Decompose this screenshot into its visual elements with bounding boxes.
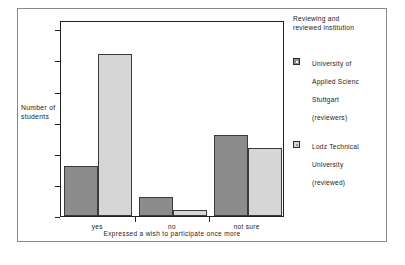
y-tick-mark (55, 61, 60, 62)
y-tick-mark (55, 30, 60, 31)
x-axis-title: Expressed a wish to participate once mor… (60, 230, 284, 237)
legend-entry-label: University of Applied Scienc Stuttgart (… (312, 60, 359, 121)
x-tick-mark (209, 217, 210, 222)
legend-entry-label: Lodz Technical University (reviewed) (312, 143, 359, 186)
y-tick-mark (55, 186, 60, 187)
x-tick-label-no: no (137, 223, 207, 230)
dark-gray-swatch-icon (293, 58, 300, 65)
x-tick-label-yes: yes (62, 223, 132, 230)
y-axis-ticks: 051015202530 (60, 21, 284, 217)
y-tick-mark (55, 93, 60, 94)
x-tick-label-not-sure: not sure (212, 223, 282, 230)
legend-title: Reviewing and reviewed institution (293, 14, 385, 32)
y-axis-title: Number of students (21, 104, 63, 121)
x-tick-mark (135, 217, 136, 222)
y-tick-mark (55, 155, 60, 156)
x-axis-ticks: yesnonot sure (60, 217, 284, 241)
y-tick-mark (55, 124, 60, 125)
legend-entry-reviewers[interactable]: University of Applied Scienc Stuttgart (… (293, 52, 385, 124)
chart-legend: Reviewing and reviewed institution Unive… (293, 14, 385, 200)
chart-figure: Number of students 051015202530 yesnonot… (0, 0, 405, 265)
legend-entry-reviewed[interactable]: Lodz Technical University (reviewed) (293, 135, 385, 189)
light-gray-swatch-icon (293, 141, 300, 148)
